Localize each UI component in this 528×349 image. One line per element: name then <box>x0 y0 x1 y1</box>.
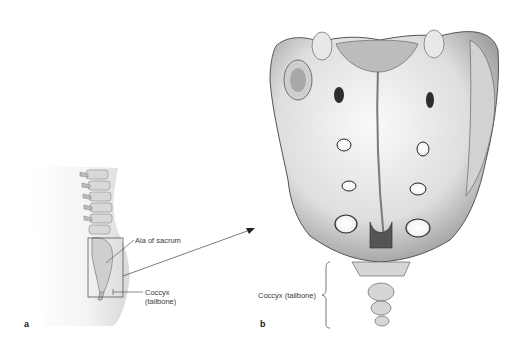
tailbone-label-a: (tailbone) <box>145 297 176 306</box>
foramen-l2 <box>337 139 351 151</box>
foramen-l3 <box>342 181 356 191</box>
foramen-r4 <box>406 219 430 237</box>
coccyx-label-a: Coccyx <box>145 288 170 297</box>
foramen-r3 <box>410 183 426 195</box>
foramen-l4 <box>335 215 357 233</box>
foramen-l1 <box>334 87 344 103</box>
sacrum-posterior <box>270 30 499 262</box>
foramen-r2 <box>417 142 429 156</box>
torso-silhouette <box>32 167 130 327</box>
coccyx-label-b: Coccyx (tailbone) <box>258 291 316 300</box>
foramen-r1 <box>426 92 434 108</box>
coccyx-posterior <box>352 262 410 326</box>
panel-letter-a: a <box>24 319 29 329</box>
panel-letter-b: b <box>260 319 266 329</box>
coccyx-brace <box>322 262 330 328</box>
ala-of-sacrum-label: Ala of sacrum <box>135 236 181 245</box>
